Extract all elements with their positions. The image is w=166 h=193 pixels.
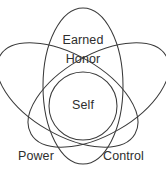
label-honor: Honor (0, 53, 166, 66)
label-self: Self (0, 99, 166, 112)
label-control: Control (103, 150, 144, 163)
venn-diagram-figure: Earned Honor Self Power Control (0, 0, 166, 193)
triquetra-venn-svg (0, 0, 166, 193)
figure-caption (0, 186, 166, 193)
label-earned: Earned (0, 34, 166, 47)
label-power: Power (18, 150, 54, 163)
